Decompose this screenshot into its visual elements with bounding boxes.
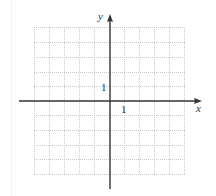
y-unit-label: 1 [101, 81, 107, 93]
coordinate-plane: y x 1 1 [0, 0, 216, 196]
y-axis-label: y [97, 10, 103, 22]
x-unit-label: 1 [121, 103, 127, 115]
x-axis-label: x [195, 102, 201, 114]
y-axis-arrow-icon [107, 14, 113, 22]
